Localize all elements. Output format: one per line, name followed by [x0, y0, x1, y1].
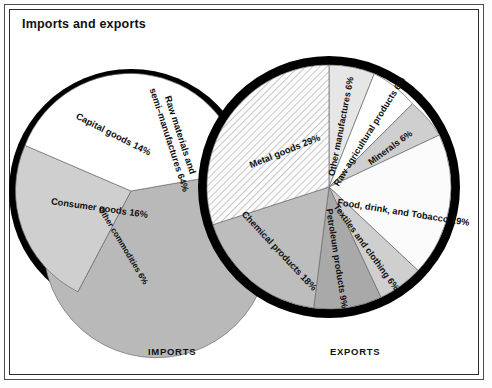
- exports-caption: EXPORTS: [330, 346, 380, 357]
- pie-charts-svg: Raw materials and semi–manufactures 64% …: [9, 9, 479, 375]
- figure-container: Imports and exports: [0, 0, 492, 388]
- exports-pie: Metal goods 29% Other manufactures 6% Ra…: [198, 56, 471, 318]
- imports-caption: IMPORTS: [148, 346, 196, 357]
